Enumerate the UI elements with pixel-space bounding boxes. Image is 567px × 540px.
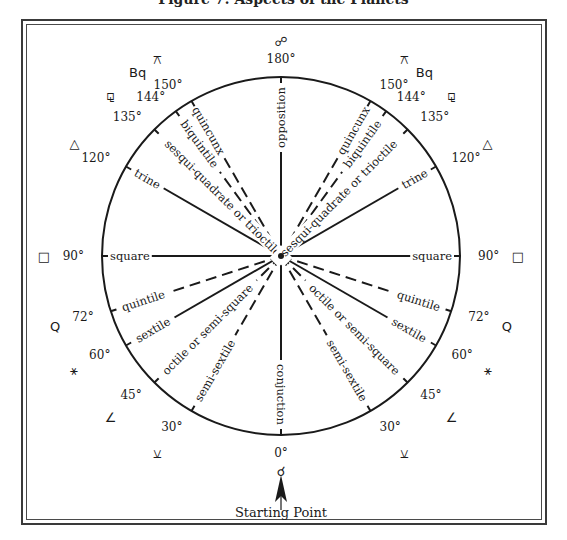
aspect-symbol-icon-left: △ [69,136,79,151]
aspect-symbol-icon: ☍ [274,34,287,49]
aspect-symbol-icon-right: ⚹ [484,363,492,378]
aspect-symbol-icon-left: Q [50,319,60,334]
starting-point-marker: Starting Point [235,475,328,520]
aspect-name: sextile [389,314,429,345]
degree-label: 180° [267,52,296,66]
aspect-label-conjuction: conjuction [274,360,288,429]
aspect-symbol-icon-right: Q [502,319,512,334]
aspect-symbol-icon-left: ∠ [105,410,117,425]
aspect-name: octile or semi-square [159,281,256,378]
degree-label-left: 45° [120,388,141,402]
aspect-label-sextile-left: sextile [128,311,178,348]
aspect-symbol-icon-right: □ [512,249,524,264]
aspect-symbol-icon-left: ⚹ [70,363,78,378]
aspect-symbol-icon-left: □ [38,249,50,264]
aspect-label-trine-right: trine [395,163,434,194]
aspect-symbol-icon-left: ⚻ [153,52,162,67]
aspect-symbol-icon-right: Bq [416,65,433,80]
degree-label-left: 72° [72,310,93,324]
aspect-symbol-icon-left: ⚺ [153,446,162,461]
aspect-name: conjuction [274,364,288,425]
starting-point-label: Starting Point [235,505,328,520]
aspect-name: sextile [133,314,173,345]
aspect-name: quintile [120,287,167,314]
aspect-symbol-icon-left: Bq [129,65,146,80]
aspect-name: square [412,249,452,263]
aspect-symbol-icon-right: ⚻ [400,52,409,67]
aspect-name: quintile [395,287,442,314]
degree-label-left: 120° [81,151,110,165]
degree-label-right: 135° [420,110,449,124]
aspect-name: square [110,249,150,263]
aspects-wheel: conjuctionsemi-sextilesemi-sextileoctile… [0,0,567,540]
aspect-label-square-right: square [410,249,454,263]
degree-label-right: 30° [380,420,401,434]
degree-label-right: 72° [468,310,489,324]
degree-label-left: 90° [63,249,84,263]
degree-label-right: 45° [420,388,441,402]
aspect-symbol-icon-left: ⚼ [106,88,115,103]
center-hub [278,253,284,259]
degree-label-right: 150° [380,78,409,92]
degree-label-right: 60° [452,348,473,362]
degree-label: 0° [274,446,288,460]
aspect-label-opposition: opposition [274,83,288,152]
degree-label-left: 60° [89,348,110,362]
aspect-label-square-left: square [108,249,152,263]
degree-label-right: 120° [452,151,481,165]
degree-label-left: 150° [154,78,183,92]
aspect-symbol-icon-right: △ [483,136,493,151]
aspect-label-trine-left: trine [128,163,167,194]
aspect-symbol-icon-right: ∠ [446,410,458,425]
degree-label-left: 30° [161,420,182,434]
aspect-symbol-icon-right: ⚼ [447,88,456,103]
aspect-name: opposition [274,87,288,148]
aspect-name: octile or semi-square [306,281,403,378]
degree-label-left: 135° [113,110,142,124]
degree-label-right: 90° [478,249,499,263]
aspect-label-quintile-right: quintile [390,285,448,316]
aspect-label-sextile-right: sextile [384,311,434,348]
aspect-symbol-icon-right: ⚺ [400,446,409,461]
aspect-label-quintile-left: quintile [114,285,172,316]
